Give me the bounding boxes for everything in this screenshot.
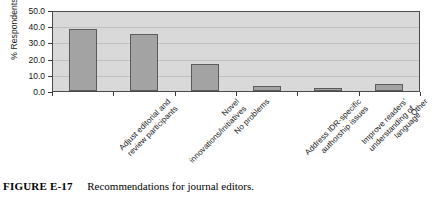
y-axis-tick <box>48 60 52 61</box>
x-axis-tick <box>297 92 298 96</box>
y-axis-tick-label: 50.0 <box>0 6 45 16</box>
gridline <box>53 43 419 44</box>
gridline <box>53 27 419 28</box>
x-axis-tick <box>113 92 114 96</box>
x-axis-category-label: Address IDR-specific authorship issues <box>303 97 370 164</box>
y-axis-tick-label: 30.0 <box>0 38 45 48</box>
figure-container: % Respondents 0.010.020.030.040.050.0 Ad… <box>0 0 432 202</box>
y-axis-tick-label: 20.0 <box>0 55 45 65</box>
x-axis-tick <box>420 92 421 96</box>
y-axis-tick <box>48 11 52 12</box>
bar <box>130 34 158 91</box>
figure-number: FIGURE E-17 <box>3 180 73 192</box>
y-axis-tick <box>48 27 52 28</box>
figure-caption: FIGURE E-17 Recommendations for journal … <box>3 180 254 192</box>
bar <box>253 86 281 91</box>
bar <box>191 64 219 91</box>
bar-chart: % Respondents 0.010.020.030.040.050.0 Ad… <box>0 0 432 175</box>
x-axis-tick <box>359 92 360 96</box>
bar <box>375 84 403 91</box>
y-axis-tick <box>48 76 52 77</box>
gridline <box>53 60 419 61</box>
x-axis-tick <box>52 92 53 96</box>
x-axis-tick <box>236 92 237 96</box>
gridline <box>53 76 419 77</box>
y-axis-tick-label: 0.0 <box>0 87 45 97</box>
y-axis-tick-label: 10.0 <box>0 71 45 81</box>
x-axis-category-label: Adjust editorial and review participants <box>117 97 179 159</box>
bar <box>314 88 342 91</box>
y-axis-tick <box>48 43 52 44</box>
y-axis-tick-label: 40.0 <box>0 22 45 32</box>
plot-area <box>52 11 420 92</box>
x-axis-tick <box>175 92 176 96</box>
caption-text: Recommendations for journal editors. <box>87 180 254 192</box>
bar <box>69 29 97 91</box>
